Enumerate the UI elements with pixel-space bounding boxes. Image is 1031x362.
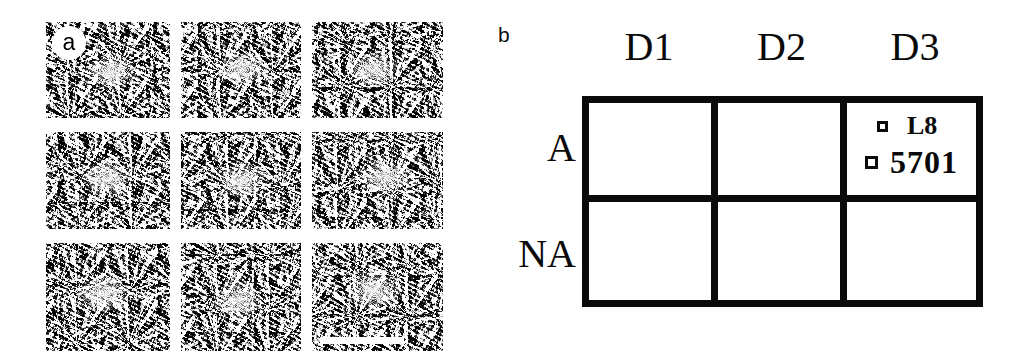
- legend-label-l8: L8: [907, 113, 937, 139]
- matrix-cell-na-d1[interactable]: [589, 202, 718, 301]
- micrograph-tile: [46, 243, 170, 351]
- open-square-marker-icon: [877, 121, 888, 132]
- micrograph-tile: [181, 132, 301, 229]
- matrix-row-headers: A NA: [488, 96, 580, 307]
- micrograph-tile: [181, 22, 301, 118]
- cell-legend: L8 5701: [857, 113, 972, 178]
- panel-a-label-badge: a: [52, 26, 86, 60]
- row-header-a: A: [488, 96, 580, 200]
- column-header-d3: D3: [847, 26, 983, 78]
- panel-a-micrograph-montage: a: [46, 22, 443, 345]
- micrograph-grid: a: [46, 22, 443, 345]
- matrix-column-headers: D1 D2 D3: [582, 26, 983, 78]
- micrograph-tile: [312, 22, 443, 118]
- micrograph-tile: [181, 243, 301, 351]
- micrograph-tile: [312, 132, 443, 229]
- legend-entry: L8: [857, 113, 972, 139]
- matrix-cell-a-d1[interactable]: [589, 103, 718, 202]
- panel-b-matrix: b D1 D2 D3 A NA L8 5701: [470, 0, 1031, 362]
- panel-b-label: b: [498, 24, 510, 45]
- open-square-marker-icon: [865, 156, 878, 169]
- scale-bar: [320, 337, 404, 344]
- matrix-table: L8 5701: [582, 96, 983, 307]
- column-header-d2: D2: [716, 26, 847, 78]
- legend-entry: 5701: [857, 146, 972, 178]
- micrograph-tile: a: [46, 22, 170, 118]
- figure-root: a b D1 D2 D3 A NA: [0, 0, 1031, 362]
- column-header-d1: D1: [582, 26, 716, 78]
- legend-label-5701: 5701: [890, 146, 958, 178]
- matrix-cell-a-d2[interactable]: [718, 103, 847, 202]
- matrix-cell-na-d3[interactable]: [847, 202, 976, 301]
- matrix-cell-a-d3[interactable]: L8 5701: [847, 103, 976, 202]
- micrograph-tile: [46, 132, 170, 229]
- micrograph-tile: [312, 243, 443, 351]
- row-header-na: NA: [488, 200, 580, 307]
- matrix-cell-na-d2[interactable]: [718, 202, 847, 301]
